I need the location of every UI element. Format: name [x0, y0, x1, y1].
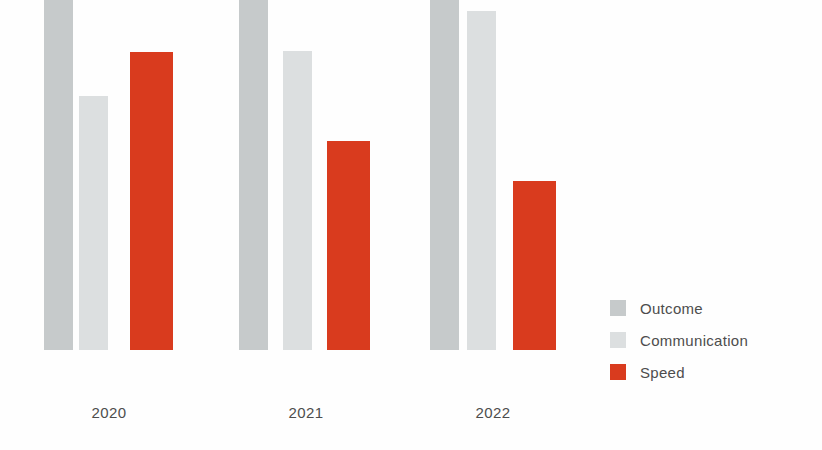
bar-speed-2020[interactable] — [130, 52, 173, 350]
legend-swatch-communication-icon — [610, 332, 626, 348]
bar-communication-2022[interactable] — [467, 11, 496, 350]
axis-label-2020: 2020 — [29, 404, 189, 421]
plot-area: 2020 2021 2022 — [0, 0, 600, 400]
bar-outcome-2021[interactable] — [239, 0, 268, 350]
bar-outcome-2022[interactable] — [430, 0, 459, 350]
bar-group-2022 — [430, 0, 590, 350]
legend-item-speed[interactable]: Speed — [610, 356, 810, 388]
bar-outcome-2020[interactable] — [44, 0, 73, 350]
bar-speed-2021[interactable] — [327, 141, 370, 350]
legend-label-communication: Communication — [640, 332, 748, 349]
bar-chart: 2020 2021 2022 Outcome Communication Spe… — [0, 0, 822, 450]
legend-item-outcome[interactable]: Outcome — [610, 292, 810, 324]
legend-item-communication[interactable]: Communication — [610, 324, 810, 356]
bar-communication-2020[interactable] — [79, 96, 108, 350]
axis-label-2022: 2022 — [413, 404, 573, 421]
bar-group-2021 — [239, 0, 399, 350]
bar-communication-2021[interactable] — [283, 51, 312, 350]
bar-speed-2022[interactable] — [513, 181, 556, 350]
legend-label-speed: Speed — [640, 364, 685, 381]
legend: Outcome Communication Speed — [610, 292, 810, 388]
legend-swatch-speed-icon — [610, 364, 626, 380]
legend-swatch-outcome-icon — [610, 300, 626, 316]
bar-group-2020 — [44, 0, 204, 350]
legend-label-outcome: Outcome — [640, 300, 703, 317]
axis-label-2021: 2021 — [226, 404, 386, 421]
